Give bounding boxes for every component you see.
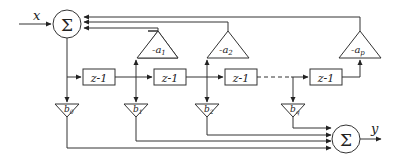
sum-symbol: Σ (61, 15, 73, 35)
delay-2: z-1 (154, 69, 186, 85)
gain-b0: b0 (55, 104, 79, 117)
iir-filter-diagram: x Σ -a1 -a2 -ap z-1 z-1 z-1 (0, 0, 399, 162)
svg-text:z-1: z-1 (232, 72, 250, 85)
feedback-line-1 (84, 28, 158, 31)
svg-text:Σ: Σ (340, 130, 352, 150)
b2-to-out (207, 117, 331, 135)
feedback-line-2 (84, 22, 228, 31)
feedback-line-p (84, 17, 360, 31)
gain-ap: -ap (339, 31, 381, 58)
b0-to-out (67, 117, 331, 148)
input-sum-node: Σ (53, 10, 81, 38)
gain-b2: b2 (195, 104, 219, 117)
delay-3: z-1 (225, 69, 257, 85)
gain-a2: -a2 (207, 31, 249, 58)
d4-to-ap (342, 60, 360, 77)
delay-4: z-1 (310, 69, 342, 85)
delay-1: z-1 (83, 69, 115, 85)
gain-b1: b1 (124, 104, 148, 117)
svg-text:z-1: z-1 (90, 72, 108, 85)
output-sum-node: Σ (332, 125, 360, 153)
input-label: x (33, 8, 41, 23)
output-label: y (370, 121, 379, 136)
b1-to-out (136, 117, 331, 141)
bq-to-out (293, 117, 331, 128)
svg-text:z-1: z-1 (317, 72, 335, 85)
gain-a1: -a1 (137, 31, 178, 58)
gain-bq: bq (281, 104, 305, 117)
svg-text:z-1: z-1 (161, 72, 179, 85)
